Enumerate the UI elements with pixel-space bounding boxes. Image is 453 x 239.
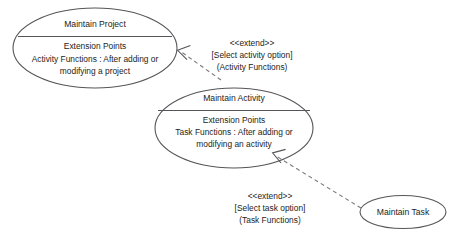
use-case-maintain-activity[interactable]: Maintain Activity Extension Points Task … bbox=[155, 88, 313, 168]
extend-stereotype-activity: <<extend>> bbox=[230, 38, 275, 48]
maintain-task-title: Maintain Task bbox=[377, 207, 430, 217]
maintain-activity-extension-line-1: Task Functions : After adding or bbox=[175, 127, 293, 137]
use-case-maintain-project[interactable]: Maintain Project Extension Points Activi… bbox=[13, 8, 177, 88]
extend-condition-activity: [Select activity option] bbox=[212, 50, 293, 60]
maintain-project-extension-line-1: Activity Functions : After adding or bbox=[32, 54, 159, 64]
maintain-project-title: Maintain Project bbox=[64, 19, 126, 29]
diagram-svg: Maintain Project Extension Points Activi… bbox=[0, 0, 453, 239]
extend-condition-task: [Select task option] bbox=[235, 203, 306, 213]
extend-stereotype-task: <<extend>> bbox=[248, 191, 293, 201]
use-case-diagram-canvas: Maintain Project Extension Points Activi… bbox=[0, 0, 453, 239]
extend-relationship-activity-to-project[interactable]: <<extend>> [Select activity option] (Act… bbox=[178, 38, 293, 80]
use-case-maintain-task[interactable]: Maintain Task bbox=[360, 196, 446, 229]
maintain-activity-extension-line-2: modifying an activity bbox=[196, 139, 272, 149]
maintain-project-extension-line-2: modifying a project bbox=[60, 66, 131, 76]
extend-extension-point-activity: (Activity Functions) bbox=[217, 62, 288, 72]
maintain-activity-section-header: Extension Points bbox=[203, 115, 265, 125]
maintain-activity-title: Maintain Activity bbox=[203, 93, 265, 103]
extend-extension-point-task: (Task Functions) bbox=[239, 215, 301, 225]
maintain-project-section-header: Extension Points bbox=[64, 41, 126, 51]
